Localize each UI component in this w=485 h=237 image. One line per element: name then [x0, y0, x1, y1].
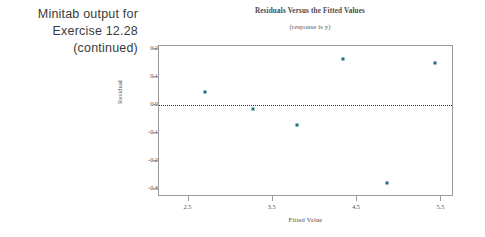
chart-title: Residuals Versus the Fitted Values — [150, 7, 470, 15]
x-axis-title: Fitted Value — [158, 216, 453, 223]
data-point — [341, 57, 344, 60]
x-tick-label: 4.5 — [341, 203, 371, 210]
data-point — [251, 107, 254, 110]
caption-line-2: Exercise 12.28 — [4, 23, 138, 40]
x-tick-mark — [356, 196, 357, 201]
caption-line-1: Minitab output for — [4, 6, 138, 23]
caption-line-3: (continued) — [4, 40, 138, 57]
x-tick-label: 2.5 — [173, 203, 203, 210]
x-tick-mark — [188, 196, 189, 201]
x-axis-tick-marks: 2.53.54.55.5 — [150, 196, 470, 204]
data-point — [433, 61, 436, 64]
chart-subtitle: (response is y) — [150, 23, 470, 30]
data-point — [204, 91, 207, 94]
x-tick-label: 3.5 — [257, 203, 287, 210]
slide-caption: Minitab output for Exercise 12.28 (conti… — [4, 6, 138, 57]
zero-reference-line — [159, 105, 452, 106]
data-point — [386, 182, 389, 185]
x-tick-mark — [272, 196, 273, 201]
data-point — [296, 123, 299, 126]
x-tick-mark — [440, 196, 441, 201]
y-axis-title: Residual — [116, 80, 123, 104]
x-tick-label: 5.5 — [425, 203, 455, 210]
plot-area — [158, 45, 453, 196]
residual-scatter-chart: Residuals Versus the Fitted Values (resp… — [150, 0, 485, 237]
